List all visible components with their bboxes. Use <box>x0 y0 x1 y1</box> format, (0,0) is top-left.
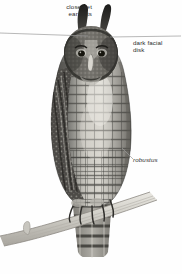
label-subspecies-robustus: robustus <box>133 156 179 163</box>
label-ear-tufts: close-set ear tufts <box>46 3 92 18</box>
facial-disk-leader <box>110 36 181 37</box>
illustration-plate: close-set ear tufts dark facial disk rob… <box>0 0 182 274</box>
label-facial-disk: dark facial disk <box>133 39 181 54</box>
